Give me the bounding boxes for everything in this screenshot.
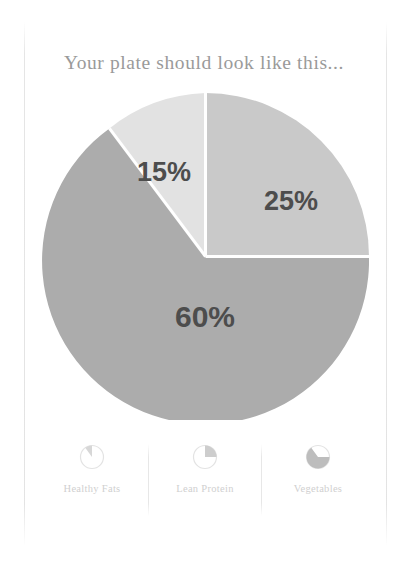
- legend-divider: [148, 444, 149, 516]
- pie-slice-60-icon: [305, 444, 331, 470]
- legend-label-vegetables: Vegetables: [294, 483, 342, 494]
- legend-label-healthy-fats: Healthy Fats: [64, 483, 121, 494]
- legend-item-vegetables[interactable]: Vegetables: [268, 444, 368, 494]
- legend-item-healthy-fats[interactable]: Healthy Fats: [42, 444, 142, 494]
- pie-label-vegetables: 60%: [175, 300, 235, 333]
- pie-label-lean-protein: 25%: [264, 186, 318, 216]
- pie-slice-lean-protein[interactable]: [206, 93, 370, 257]
- chart-legend: Healthy Fats Lean Protein Vegetables: [24, 444, 386, 516]
- pie-slice-15-icon: [79, 444, 105, 470]
- chart-title: Your plate should look like this...: [0, 52, 408, 74]
- legend-divider: [261, 444, 262, 516]
- pie-label-healthy-fats: 15%: [137, 157, 191, 187]
- card-border-right: [386, 22, 387, 546]
- pie-chart: 25% 60% 15%: [42, 93, 369, 420]
- plate-pie-chart-figure: Your plate should look like this... 25% …: [0, 0, 408, 574]
- legend-label-lean-protein: Lean Protein: [176, 483, 234, 494]
- legend-item-lean-protein[interactable]: Lean Protein: [155, 444, 255, 494]
- pie-slice-25-icon: [192, 444, 218, 470]
